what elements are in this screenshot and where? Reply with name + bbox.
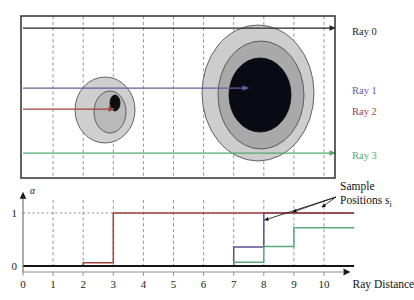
ray-2-label: Ray 2	[352, 106, 377, 117]
sample-positions-annotation: SamplePositions si	[265, 180, 393, 220]
x-tick-label: 5	[171, 278, 177, 290]
y-axis-arrowhead	[20, 192, 27, 199]
ray-0-label: Ray 0	[352, 26, 377, 37]
x-tick-label: 8	[261, 278, 267, 290]
x-tick-label: 1	[50, 278, 56, 290]
blob-layer-2	[229, 58, 291, 132]
scene-panel: Ray 0Ray 1Ray 2Ray 3	[21, 16, 377, 178]
y-tick-label: 1	[12, 207, 18, 219]
x-axis-arrowhead	[343, 269, 350, 276]
annotation-line-2: Positions si	[340, 194, 393, 209]
blob-small-blob	[75, 77, 135, 143]
chart-series-ray-3	[23, 228, 354, 266]
x-tick-label: 4	[141, 278, 147, 290]
x-tick-label: 10	[319, 278, 331, 290]
y-axis-label: α	[30, 186, 36, 196]
annotation-leader-1	[293, 197, 336, 212]
ray-casting-figure: Ray 0Ray 1Ray 2Ray 310α012345678910Ray D…	[0, 0, 414, 300]
blob-layer-1	[94, 91, 126, 133]
chart-series-ray-1	[23, 213, 354, 266]
figure-canvas: Ray 0Ray 1Ray 2Ray 310α012345678910Ray D…	[0, 0, 414, 300]
blob-large-blob	[202, 25, 314, 161]
x-tick-label: 0	[20, 278, 26, 290]
chart-series-ray-2	[23, 213, 354, 266]
x-axis-label: Ray Distance	[353, 278, 414, 291]
x-tick-label: 9	[291, 278, 297, 290]
annotation-subscript: i	[390, 200, 393, 209]
ray-1-label: Ray 1	[352, 85, 377, 96]
annotation-line-1: Sample	[340, 180, 375, 193]
y-tick-label: 0	[12, 260, 18, 272]
x-tick-label: 2	[80, 278, 86, 290]
ray-3-label: Ray 3	[352, 150, 377, 161]
x-tick-label: 6	[201, 278, 207, 290]
x-tick-label: 7	[231, 278, 237, 290]
x-tick-label: 3	[111, 278, 117, 290]
